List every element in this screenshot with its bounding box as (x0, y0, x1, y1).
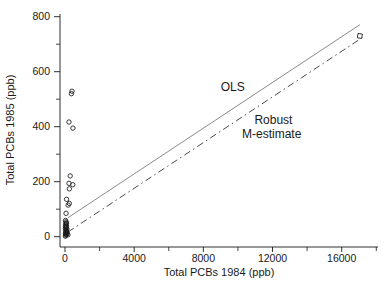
pcb-scatter-figure: 02004006008000400080001200016000Total PC… (0, 0, 392, 291)
data-point-circle (71, 183, 75, 187)
line-annotation: M-estimate (242, 127, 302, 141)
y-tick-label: 200 (32, 175, 50, 187)
chart-canvas: 02004006008000400080001200016000Total PC… (0, 0, 392, 291)
line-annotation: OLS (221, 80, 245, 94)
data-point-circle (64, 197, 68, 201)
outlier-point-square (357, 33, 362, 38)
data-point-circle (67, 120, 71, 124)
y-tick-label: 800 (32, 10, 50, 22)
y-tick-label: 400 (32, 120, 50, 132)
x-tick-label: 8000 (192, 252, 216, 264)
line-annotation: Robust (254, 113, 293, 127)
data-point-circle (64, 211, 68, 215)
y-axis-title: Total PCBs 1985 (ppb) (4, 75, 16, 186)
x-tick-label: 16000 (327, 252, 356, 264)
data-point-circle (68, 174, 72, 178)
x-axis-title: Total PCBs 1984 (ppb) (164, 266, 275, 278)
data-point-circle (71, 126, 75, 130)
x-tick-label: 4000 (122, 252, 146, 264)
x-tick-label: 12000 (258, 252, 287, 264)
robust-fit-line (68, 38, 361, 232)
ols-fit-line (68, 25, 360, 218)
y-tick-label: 600 (32, 65, 50, 77)
x-tick-label: 0 (62, 252, 68, 264)
y-tick-label: 0 (44, 230, 50, 242)
data-point-circle (67, 187, 71, 191)
